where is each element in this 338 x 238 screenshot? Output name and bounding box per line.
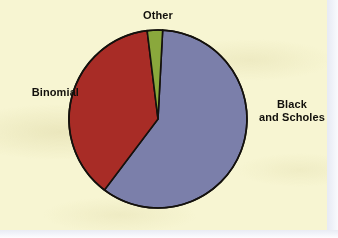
pie-label-black-and-scholes-line1: Black	[258, 98, 326, 111]
pie-label-binomial-text: Binomial	[32, 86, 79, 98]
pie-label-other: Other	[125, 9, 191, 22]
pie-label-other-text: Other	[143, 9, 173, 21]
pie-label-black-and-scholes: Black and Scholes	[258, 98, 326, 124]
pie-slices	[69, 30, 247, 208]
pie-chart-figure: Other Binomial Black and Scholes	[0, 0, 338, 238]
pie-label-black-and-scholes-line2: and Scholes	[258, 111, 326, 124]
pie-label-binomial: Binomial	[7, 86, 79, 99]
